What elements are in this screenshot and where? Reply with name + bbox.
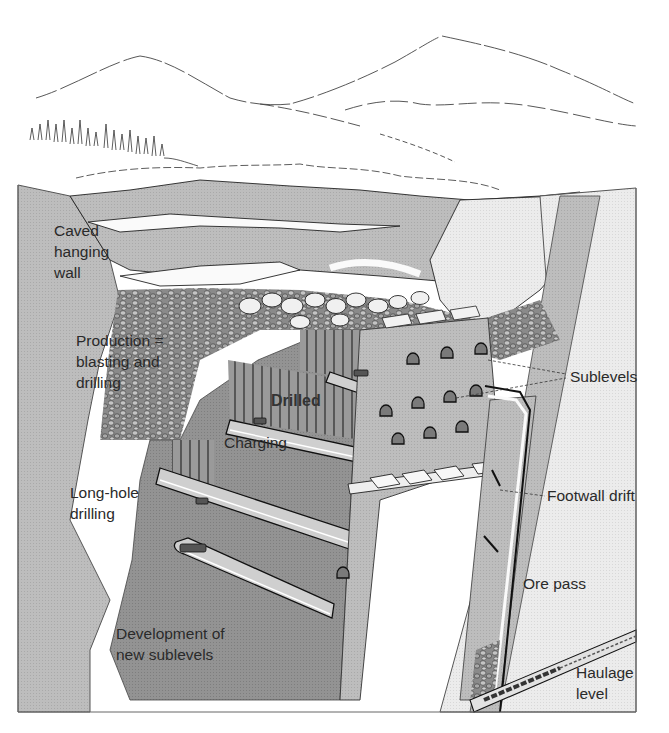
label-production: Production = blasting and drilling [76, 330, 163, 393]
label-ore-pass: Ore pass [523, 573, 586, 594]
label-long-hole-drilling: Long-hole drilling [70, 482, 139, 524]
label-drilled: Drilled [271, 390, 321, 411]
tree-line [30, 120, 500, 190]
label-caved-hanging-wall: Caved hanging wall [54, 220, 109, 283]
label-sublevels: Sublevels [570, 366, 637, 387]
label-footwall-drift: Footwall drift [547, 485, 635, 506]
label-charging: Charging [224, 432, 287, 453]
label-haulage-level: Haulage level [576, 662, 634, 704]
mountain-outlines [36, 36, 636, 162]
label-development: Development of new sublevels [116, 623, 225, 665]
